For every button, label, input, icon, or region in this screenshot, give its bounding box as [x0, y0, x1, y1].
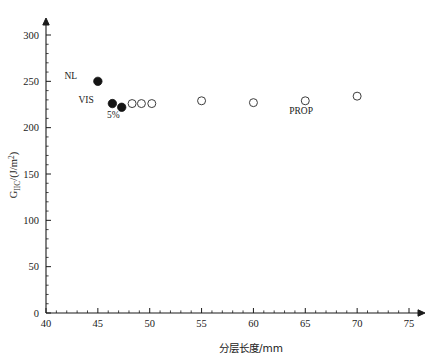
y-axis-title-unit-pre: /(J/m: [8, 159, 20, 181]
y-tick-label: 50: [29, 261, 40, 272]
data-points: [94, 77, 361, 111]
data-point-open: [249, 99, 257, 107]
x-tick-label: 60: [248, 318, 259, 329]
x-tick-label: 75: [404, 318, 415, 329]
data-point-open: [137, 100, 145, 108]
annotation-nl: NL: [64, 71, 77, 81]
chart-container: 4045505560657075050100150200250300 NLVIS…: [0, 0, 435, 361]
x-tick-label: 45: [93, 318, 104, 329]
scatter-plot: 4045505560657075050100150200250300 NLVIS…: [0, 0, 435, 361]
plot-annotations: NLVIS5%PROP: [64, 71, 313, 120]
data-point-open: [353, 92, 361, 100]
y-tick-label: 150: [23, 169, 39, 180]
y-tick-label: 0: [34, 308, 39, 319]
y-axis-title-unit-post: ): [8, 151, 20, 155]
data-point-filled: [108, 99, 116, 107]
data-point-open: [198, 97, 206, 105]
data-point-open: [128, 100, 136, 108]
data-point-filled: [94, 77, 102, 85]
y-tick-label: 250: [23, 76, 39, 87]
x-axis-title: 分层长度/mm: [219, 342, 283, 354]
axis-tick-labels: 4045505560657075050100150200250300: [23, 30, 414, 329]
data-point-open: [148, 100, 156, 108]
y-tick-label: 100: [23, 215, 39, 226]
y-tick-label: 200: [23, 122, 39, 133]
x-tick-label: 40: [41, 318, 52, 329]
x-tick-label: 70: [352, 318, 363, 329]
y-axis-arrow: [43, 18, 49, 25]
svg-text:GIIC/(J/m2): GIIC/(J/m2): [7, 151, 22, 198]
y-axis-title-subscript: IIC: [13, 181, 22, 191]
axes: [43, 18, 425, 316]
x-axis-arrow: [418, 310, 425, 316]
annotation-vis: VIS: [78, 95, 93, 105]
x-tick-label: 50: [144, 318, 155, 329]
annotation-5-: 5%: [107, 110, 120, 120]
data-point-open: [301, 97, 309, 105]
y-tick-label: 300: [23, 30, 39, 41]
x-tick-label: 65: [300, 318, 311, 329]
y-axis-title: GIIC/(J/m2): [7, 151, 22, 198]
x-tick-label: 55: [196, 318, 207, 329]
annotation-prop: PROP: [289, 106, 313, 116]
axis-ticks: [46, 35, 409, 313]
